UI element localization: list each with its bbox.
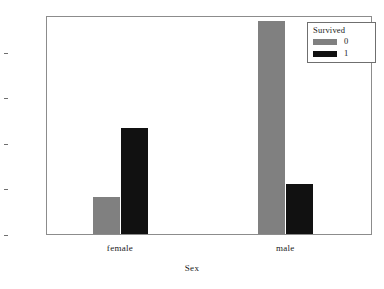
y-tick-mark	[4, 144, 8, 145]
legend-label-survived-1: 1	[344, 49, 348, 58]
bar-male-survived-0	[258, 21, 285, 234]
legend-swatch-survived-0	[313, 39, 337, 45]
bar-male-survived-1	[286, 184, 313, 234]
legend-title: Survived	[313, 25, 371, 35]
x-tick-label-male: male	[276, 243, 295, 253]
legend-label-survived-0: 0	[344, 37, 348, 46]
y-tick-mark	[4, 98, 8, 99]
bar-chart-figure: 0100200300400 Survived 0 1 Sex femalemal…	[0, 0, 384, 289]
y-axis: 0100200300400	[0, 0, 46, 289]
legend-item-1: 1	[313, 48, 371, 59]
bar-female-survived-1	[121, 128, 148, 234]
legend-item-0: 0	[313, 36, 371, 47]
bar-female-survived-0	[93, 197, 120, 234]
legend-swatch-survived-1	[313, 51, 337, 57]
legend: Survived 0 1	[307, 22, 376, 63]
x-axis-title: Sex	[0, 263, 384, 273]
y-tick-mark	[4, 189, 8, 190]
y-tick-mark	[4, 53, 8, 54]
y-tick-mark	[4, 235, 8, 236]
x-tick-label-female: female	[107, 243, 133, 253]
